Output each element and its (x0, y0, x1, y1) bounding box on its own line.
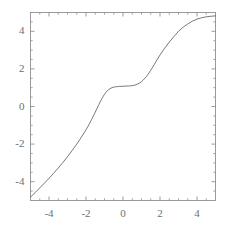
x-tick-label-1: -2 (66, 208, 106, 219)
y-tick-label-1: -2 (15, 138, 24, 149)
y-tick-label-4: 4 (19, 25, 25, 36)
x-tick-label-2: 0 (103, 208, 143, 219)
x-tick-label-3: 2 (140, 208, 180, 219)
y-tick-label-3: 2 (19, 63, 25, 74)
x-tick-label-0: -4 (29, 208, 69, 219)
chart-figure: -4-2024-4-2024 (0, 0, 233, 231)
y-tick-label-2: 0 (19, 101, 25, 112)
plot-canvas (0, 0, 233, 231)
y-tick-label-0: -4 (15, 176, 24, 187)
x-tick-label-4: 4 (177, 208, 217, 219)
plot-background (0, 0, 233, 231)
